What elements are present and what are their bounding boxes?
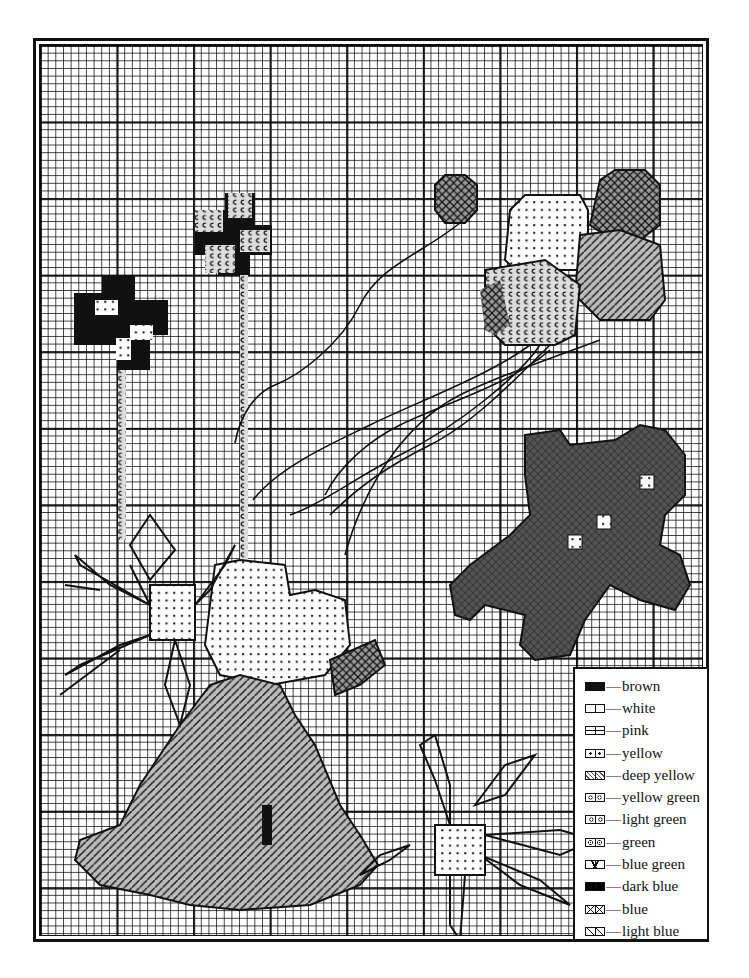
figure-right — [450, 425, 690, 660]
legend-label: blue — [622, 901, 648, 918]
pinwheel-left — [74, 275, 168, 540]
legend-item-blue: — blue — [575, 898, 707, 920]
v-mark-swatch-icon — [585, 860, 605, 869]
legend-label: yellow green — [622, 789, 700, 806]
legend-item-yellow: — yellow — [575, 742, 707, 764]
dash-swatch-icon — [585, 726, 605, 735]
solid-dark-swatch-icon — [585, 882, 605, 891]
dot-swatch-icon — [585, 749, 605, 758]
legend-item-green: — green — [575, 831, 707, 853]
c-hook-swatch-icon — [585, 815, 605, 824]
legend-item-light-green: — light green — [575, 809, 707, 831]
flower-bottom — [360, 735, 595, 936]
double-circle-swatch-icon — [585, 793, 605, 802]
legend-item-pink: — pink — [575, 720, 707, 742]
legend-item-blue-green: — blue green — [575, 853, 707, 875]
legend-label: green — [622, 834, 655, 851]
diagonal-swatch-icon — [585, 927, 605, 936]
legend-label: dark blue — [622, 878, 678, 895]
legend-label: brown — [622, 678, 660, 695]
x-mark-swatch-icon — [585, 905, 605, 914]
legend-item-brown: — brown — [575, 675, 707, 697]
legend-label: light blue — [622, 923, 679, 940]
pinwheel-middle — [195, 193, 272, 565]
legend-item-dark-blue: — dark blue — [575, 876, 707, 898]
legend-item-white: — white — [575, 697, 707, 719]
color-legend: — brown — white — pink — yellow — deep y… — [573, 667, 707, 939]
circle-dot-swatch-icon — [585, 838, 605, 847]
legend-label: blue green — [622, 856, 685, 873]
legend-item-light-blue: — light blue — [575, 920, 707, 942]
blank-swatch-icon — [585, 704, 605, 713]
legend-label: yellow — [622, 745, 663, 762]
figure-left-dress — [75, 675, 378, 910]
legend-item-yellow-green: — yellow green — [575, 786, 707, 808]
legend-label: pink — [622, 722, 649, 739]
legend-label: white — [622, 700, 655, 717]
solid-brown-swatch-icon — [585, 682, 605, 691]
legend-item-deep-yellow: — deep yellow — [575, 764, 707, 786]
legend-label: deep yellow — [622, 767, 695, 784]
balloons — [435, 170, 665, 345]
dot-slash-swatch-icon — [585, 771, 605, 780]
legend-label: light green — [622, 811, 687, 828]
